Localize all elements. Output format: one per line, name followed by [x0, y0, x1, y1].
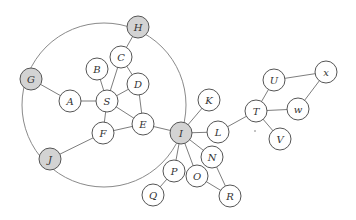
node-label: P [170, 166, 178, 177]
node-label: Q [149, 190, 157, 201]
node-G: G [20, 68, 42, 90]
node-label: A [65, 96, 73, 107]
node-label: S [104, 96, 111, 107]
node-label: J [46, 154, 53, 165]
node-A: A [59, 90, 81, 112]
node-label: w [294, 104, 303, 115]
node-O: O [186, 165, 208, 187]
node-label: L [214, 127, 222, 138]
node-S: S [96, 90, 118, 112]
node-label: C [117, 52, 125, 63]
node-F: F [92, 122, 114, 144]
node-label: K [204, 95, 213, 106]
node-label: G [27, 74, 35, 85]
node-B: B [86, 58, 108, 80]
node-C: C [110, 46, 132, 68]
node-w: w [287, 98, 309, 120]
node-label: U [270, 75, 279, 86]
node-label: F [99, 128, 108, 139]
node-label: H [133, 22, 143, 33]
node-label: B [92, 64, 100, 75]
node-Q: Q [142, 184, 164, 206]
node-J: J [39, 148, 61, 170]
node-label: D [133, 79, 142, 90]
node-T: T [245, 100, 267, 122]
node-label: N [207, 152, 218, 163]
node-label: x [323, 67, 329, 78]
node-label: R [225, 191, 234, 202]
node-P: P [163, 160, 185, 182]
node-N: N [201, 146, 223, 168]
node-R: R [219, 185, 241, 207]
node-label: E [138, 119, 147, 130]
node-K: K [198, 89, 220, 111]
node-x: x [315, 61, 337, 83]
node-D: D [127, 73, 149, 95]
node-H: H [127, 16, 149, 38]
graph-diagram: HGJIBCDASFEKLNOPQRTUVwx [0, 0, 356, 220]
node-label: O [193, 171, 201, 182]
stray-dot [254, 130, 256, 132]
node-E: E [132, 113, 154, 135]
node-L: L [207, 121, 229, 143]
node-U: U [263, 69, 285, 91]
node-I: I [170, 122, 192, 144]
node-V: V [269, 128, 291, 150]
